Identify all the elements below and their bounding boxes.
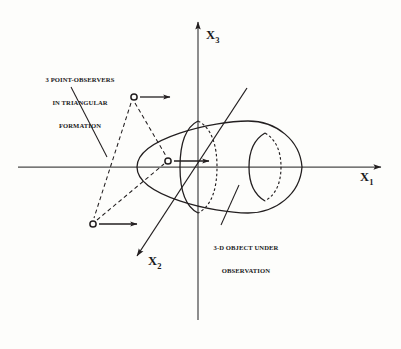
x1-axis-label: X1	[360, 170, 374, 187]
x3-axis-label-subscript: 3	[215, 35, 219, 45]
x1-axis-label-subscript: 1	[369, 177, 373, 187]
x2-axis-label: X2	[148, 254, 162, 271]
x2-axis-label-subscript: 2	[157, 261, 161, 271]
figure-root: 3 POINT-OBSERVERS IN TRIANGULAR FORMATIO…	[0, 0, 401, 349]
x1-axis-label-text: X	[360, 170, 369, 184]
observer-bottom-left-marker	[90, 221, 96, 227]
observers-callout-line1: 3 POINT-OBSERVERS	[28, 76, 132, 84]
diagram-canvas	[0, 0, 401, 349]
observers-callout-label: 3 POINT-OBSERVERS IN TRIANGULAR FORMATIO…	[28, 60, 132, 145]
observers-callout-line2: IN TRIANGULAR	[28, 99, 132, 107]
observer-middle-marker	[165, 158, 171, 164]
x3-axis-label: X3	[206, 28, 220, 45]
leader-line-object	[221, 185, 239, 225]
x2-axis-label-text: X	[148, 254, 157, 268]
x3-axis-label-text: X	[206, 28, 215, 42]
object-callout-line2: OBSERVATION	[190, 267, 302, 275]
dash-top-to-middle	[135, 103, 166, 156]
object-callout-line1: 3-D OBJECT UNDER	[190, 244, 302, 252]
dash-bottom-to-middle	[97, 164, 164, 220]
object-callout-label: 3-D OBJECT UNDER OBSERVATION	[190, 228, 302, 290]
observers-callout-line3: FORMATION	[28, 122, 132, 130]
